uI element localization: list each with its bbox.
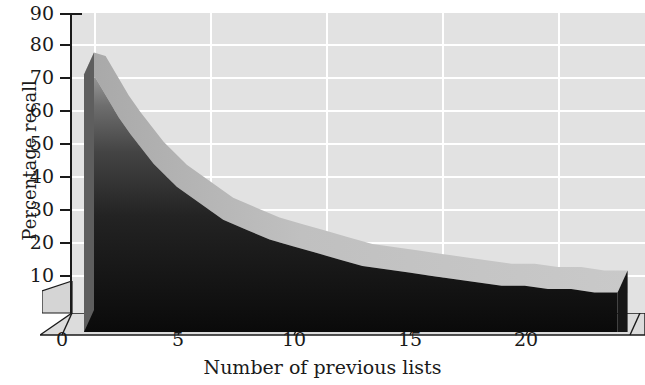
y-tick-80 xyxy=(60,44,72,46)
x-tick-label-5: 5 xyxy=(158,330,198,349)
x-tick-label-10: 10 xyxy=(274,330,314,349)
y-tick-70 xyxy=(60,77,72,79)
y-tick-label-90: 90 xyxy=(8,4,54,23)
y-tick-10 xyxy=(60,275,72,277)
x-axis-title: Number of previous lists xyxy=(0,356,645,378)
y-axis-title: Percentage recall xyxy=(19,56,40,266)
y-tick-40 xyxy=(60,176,72,178)
x-tick-label-0: 0 xyxy=(42,330,82,349)
y-tick-90 xyxy=(60,13,72,15)
gridline-vertical-0 xyxy=(94,13,96,313)
gridline-vertical-20 xyxy=(558,13,560,313)
gridline-vertical-10 xyxy=(326,13,328,313)
floor-plane xyxy=(40,313,645,347)
y-tick-label-10: 10 xyxy=(8,266,54,285)
y-tick-label-80: 80 xyxy=(8,35,54,54)
gridline-vertical-5 xyxy=(210,13,212,313)
x-tick-label-15: 15 xyxy=(390,330,430,349)
plot-panel xyxy=(72,13,645,313)
gridline-vertical-15 xyxy=(442,13,444,313)
y-axis-line xyxy=(70,13,72,314)
y-tick-30 xyxy=(60,209,72,211)
y-tick-50 xyxy=(60,143,72,145)
y-tick-20 xyxy=(60,242,72,244)
figure-container: 90 80 70 60 50 40 30 20 10 0 5 10 15 20 … xyxy=(0,0,645,385)
x-tick-label-20: 20 xyxy=(506,330,546,349)
y-tick-60 xyxy=(60,110,72,112)
